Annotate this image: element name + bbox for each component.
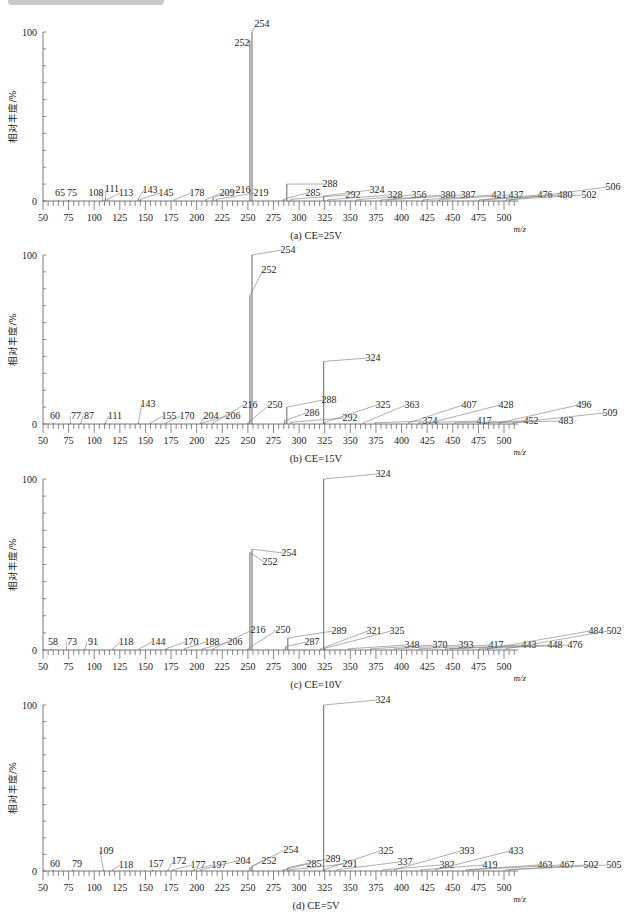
x-tick-label: 400 xyxy=(394,882,409,893)
peak-labels: 6079109118157172177197204252254285289291… xyxy=(50,694,622,870)
x-tick-label: 450 xyxy=(445,882,460,893)
x-tick-label: 50 xyxy=(38,882,48,893)
x-tick-label: 475 xyxy=(471,882,486,893)
peak-label-109: 109 xyxy=(99,845,114,856)
x-tick-label: 500 xyxy=(497,882,512,893)
x-axis-label: m/z xyxy=(513,894,526,904)
y-axis-label: 相对丰度/% xyxy=(7,762,18,814)
x-tick-label: 175 xyxy=(164,882,179,893)
peak-label-60: 60 xyxy=(50,858,60,869)
peak-label-393: 393 xyxy=(460,845,475,856)
x-tick-label: 100 xyxy=(87,882,102,893)
panel-caption: (d) CE=5V xyxy=(292,900,339,912)
x-tick-label: 200 xyxy=(189,882,204,893)
x-tick-label: 325 xyxy=(317,882,332,893)
x-tick-label: 125 xyxy=(112,882,127,893)
peak-label-325: 325 xyxy=(379,845,394,856)
peak-label-172: 172 xyxy=(172,855,187,866)
x-tick-label: 225 xyxy=(215,882,230,893)
peak-label-177: 177 xyxy=(191,859,206,870)
chart-axes: 1000相对丰度/%507510012515017520022525027530… xyxy=(7,700,526,912)
peak-label-502: 502 xyxy=(584,859,599,870)
x-tick-label: 375 xyxy=(368,882,383,893)
peak-label-118: 118 xyxy=(119,859,134,870)
peaks xyxy=(53,705,509,871)
peak-label-324: 324 xyxy=(376,694,391,705)
peak-label-254: 254 xyxy=(284,844,299,855)
x-tick-label: 250 xyxy=(240,882,255,893)
peak-label-157: 157 xyxy=(149,858,164,869)
peak-label-289: 289 xyxy=(326,853,341,864)
peak-label-505: 505 xyxy=(607,859,622,870)
x-tick-label: 425 xyxy=(420,882,435,893)
y-tick-0: 0 xyxy=(32,866,37,877)
x-tick-label: 350 xyxy=(343,882,358,893)
peak-label-433: 433 xyxy=(509,845,524,856)
peak-label-197: 197 xyxy=(212,859,227,870)
peak-label-204: 204 xyxy=(236,855,251,866)
x-tick-label: 275 xyxy=(266,882,281,893)
x-tick-label: 75 xyxy=(64,882,74,893)
peak-label-467: 467 xyxy=(560,859,575,870)
spectrum-panel-d: 1000相对丰度/%507510012515017520022525027530… xyxy=(0,0,630,922)
peak-label-79: 79 xyxy=(72,858,82,869)
x-tick-label: 300 xyxy=(292,882,307,893)
y-tick-100: 100 xyxy=(22,700,37,711)
x-tick-label: 150 xyxy=(138,882,153,893)
